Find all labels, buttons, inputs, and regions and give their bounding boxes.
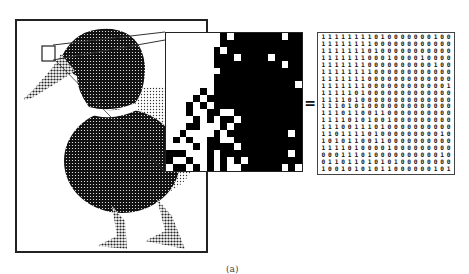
pixel-cell (166, 130, 173, 137)
pixel-cell (173, 68, 180, 75)
pixel-cell (295, 102, 302, 109)
pixel-cell (207, 47, 214, 54)
pixel-cell (214, 157, 221, 164)
pixel-cell (295, 54, 302, 61)
pixel-cell (282, 109, 289, 116)
pixel-cell (241, 74, 248, 81)
pixel-cell (282, 95, 289, 102)
pixel-cell (200, 54, 207, 61)
pixel-cell (220, 47, 227, 54)
equals-sign: = (303, 95, 317, 111)
pixel-cell (186, 47, 193, 54)
pixel-cell (282, 137, 289, 144)
pixel-cell (241, 95, 248, 102)
pixel-cell (248, 109, 255, 116)
pixel-cell (173, 95, 180, 102)
matrix-digit: 1 (386, 166, 393, 173)
matrix-row: 11110100000000000000 (320, 97, 452, 104)
pixel-cell (166, 164, 173, 171)
pixel-cell (234, 47, 241, 54)
pixel-cell (214, 164, 221, 171)
zoomed-pixel-grid (165, 32, 303, 172)
pixel-cell (234, 74, 241, 81)
pixel-cell (254, 54, 261, 61)
pixel-cell (173, 74, 180, 81)
pixel-cell (261, 54, 268, 61)
pixel-cell (180, 74, 187, 81)
pixel-cell (166, 81, 173, 88)
pixel-cell (248, 88, 255, 95)
pixel-cell (261, 116, 268, 123)
pixel-cell (186, 61, 193, 68)
pixel-cell (261, 95, 268, 102)
pixel-cell (186, 157, 193, 164)
matrix-digit: 0 (327, 166, 334, 173)
pixel-cell (227, 61, 234, 68)
pixel-cell (173, 88, 180, 95)
pixel-cell (248, 81, 255, 88)
pixel-cell (295, 74, 302, 81)
pixel-cell (180, 81, 187, 88)
pixel-cell (275, 150, 282, 157)
pixel-cell (295, 61, 302, 68)
pixel-cell (227, 116, 234, 123)
pixel-cell (173, 61, 180, 68)
pixel-cell (186, 123, 193, 130)
pixel-cell (241, 150, 248, 157)
pixel-cell (295, 109, 302, 116)
pixel-cell (288, 95, 295, 102)
pixel-cell (214, 88, 221, 95)
matrix-digit: 0 (399, 166, 406, 173)
pixel-cell (254, 150, 261, 157)
pixel-cell (288, 143, 295, 150)
pixel-cell (275, 164, 282, 171)
pixel-cell (275, 68, 282, 75)
matrix-row: 01101101010100000000 (320, 159, 452, 166)
pixel-cell (295, 137, 302, 144)
pixel-cell (200, 123, 207, 130)
pixel-cell (254, 61, 261, 68)
pixel-cell (193, 164, 200, 171)
pixel-cell (207, 130, 214, 137)
pixel-cell (241, 33, 248, 40)
pixel-cell (220, 116, 227, 123)
pixel-cell (166, 61, 173, 68)
pixel-cell (234, 40, 241, 47)
pixel-cell (227, 109, 234, 116)
pixel-cell (288, 54, 295, 61)
pixel-cell (200, 143, 207, 150)
pixel-cell (282, 61, 289, 68)
pixel-cell (241, 40, 248, 47)
pixel-cell (261, 88, 268, 95)
pixel-cell (220, 81, 227, 88)
pixel-cell (288, 40, 295, 47)
pixel-cell (268, 47, 275, 54)
pixel-cell (248, 47, 255, 54)
pixel-cell (227, 47, 234, 54)
pixel-cell (234, 88, 241, 95)
pixel-cell (282, 123, 289, 130)
pixel-cell (193, 95, 200, 102)
pixel-cell (220, 40, 227, 47)
pixel-cell (295, 95, 302, 102)
matrix-digit: 1 (353, 166, 360, 173)
pixel-cell (200, 95, 207, 102)
pixel-cell (214, 143, 221, 150)
pixel-cell (207, 95, 214, 102)
pixel-cell (200, 88, 207, 95)
pixel-cell (254, 33, 261, 40)
matrix-digit: 1 (340, 166, 347, 173)
pixel-cell (282, 102, 289, 109)
matrix-row: 00011101000000000010 (320, 152, 452, 159)
pixel-cell (288, 137, 295, 144)
pixel-cell (282, 157, 289, 164)
pixel-cell (173, 33, 180, 40)
pixel-cell (254, 164, 261, 171)
pixel-cell (180, 95, 187, 102)
pixel-cell (186, 40, 193, 47)
pixel-cell (180, 68, 187, 75)
pixel-cell (166, 40, 173, 47)
matrix-digit: 0 (360, 166, 367, 173)
pixel-cell (180, 130, 187, 137)
pixel-cell (248, 61, 255, 68)
